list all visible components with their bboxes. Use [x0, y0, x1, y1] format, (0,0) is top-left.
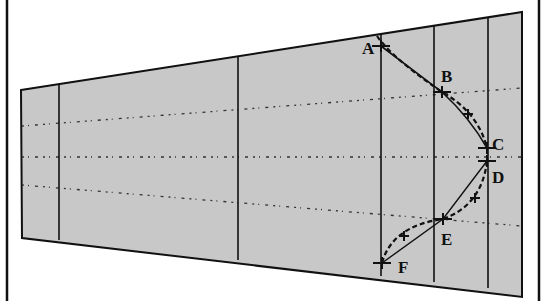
point-label-d: D: [492, 168, 504, 187]
point-label-a: A: [362, 39, 375, 58]
wing-diagram: ABCDEF: [0, 0, 544, 301]
wing-planform: [21, 12, 522, 297]
point-label-f: F: [398, 258, 408, 277]
point-label-c: C: [492, 135, 504, 154]
planform-outline: [21, 12, 522, 297]
point-label-b: B: [441, 67, 452, 86]
point-label-e: E: [441, 230, 452, 249]
